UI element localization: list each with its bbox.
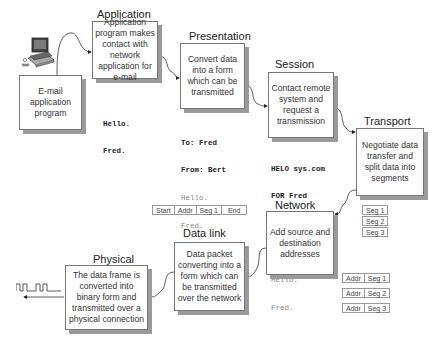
application-payload: Hello. Fred. xyxy=(103,101,130,166)
segment-cell: Seg 1 xyxy=(364,273,390,283)
payload-line: Hello. xyxy=(271,276,325,285)
transport-description: Negotiate data transfer and split data i… xyxy=(359,140,421,184)
frame-row: Start Addr Seg 1 End xyxy=(152,205,246,215)
frame-segment-cell: Seg 1 xyxy=(196,205,222,215)
payload-line: HELO sys.com xyxy=(271,165,325,174)
presentation-payload: To: Fred From: Bert Hello. Fred. xyxy=(181,120,226,241)
segment-cell: Seg 2 xyxy=(362,216,388,226)
email-application-box: E-mail application program xyxy=(19,75,82,130)
segment-cell: Seg 3 xyxy=(362,227,388,237)
session-description: Contact remote system and request a tran… xyxy=(271,83,331,127)
payload-line: From: Bert xyxy=(181,166,226,175)
transport-layer-box: Negotiate data transfer and split data i… xyxy=(356,128,424,196)
transport-title: Transport xyxy=(364,115,411,127)
datalink-title: Data link xyxy=(183,227,226,239)
payload-line: Fred. xyxy=(271,304,325,313)
addressed-segment-row: Addr Seg 2 xyxy=(342,288,389,298)
segments-stack: Seg 1 Seg 2 Seg 3 xyxy=(362,205,388,237)
addressed-segment-row: Addr Seg 1 xyxy=(342,273,389,283)
payload-line: Hello. xyxy=(103,120,130,129)
addr-cell: Addr xyxy=(342,273,365,283)
presentation-layer-box: Convert data into a form which can be tr… xyxy=(180,43,245,109)
datalink-layer-box: Data packet converting into a form which… xyxy=(174,242,245,311)
payload-line: To: Fred xyxy=(181,139,226,148)
email-application-label: E-mail application program xyxy=(22,86,79,119)
addr-cell: Addr xyxy=(342,303,365,313)
physical-layer-box: The data frame is converted into binary … xyxy=(65,265,148,330)
network-layer-box: Add source and destination addresses xyxy=(266,211,334,275)
network-description: Add source and destination addresses xyxy=(269,227,331,260)
addressed-segment-row: Addr Seg 3 xyxy=(342,303,389,313)
physical-description: The data frame is converted into binary … xyxy=(68,270,145,325)
presentation-title: Presentation xyxy=(189,30,251,42)
payload-line: Fred. xyxy=(103,147,130,156)
segment-cell: Seg 2 xyxy=(364,288,390,298)
frame-addr-cell: Addr xyxy=(174,205,197,215)
application-layer-box: Application program makes contact with n… xyxy=(92,21,158,79)
frame-end-cell: End xyxy=(221,205,247,215)
session-layer-box: Contact remote system and request a tran… xyxy=(268,72,334,138)
presentation-description: Convert data into a form which can be tr… xyxy=(183,54,242,98)
segment-cell: Seg 3 xyxy=(364,303,390,313)
square-wave-icon xyxy=(16,282,62,292)
payload-line: Hello. xyxy=(181,194,226,203)
network-title: Network xyxy=(275,199,315,211)
application-description: Application program makes contact with n… xyxy=(95,17,155,83)
session-title: Session xyxy=(275,58,314,70)
physical-title: Physical xyxy=(93,253,134,265)
segment-cell: Seg 1 xyxy=(362,205,388,215)
datalink-description: Data packet converting into a form which… xyxy=(177,249,242,304)
frame-start-cell: Start xyxy=(152,205,175,215)
computer-icon xyxy=(20,36,56,72)
addr-cell: Addr xyxy=(342,288,365,298)
